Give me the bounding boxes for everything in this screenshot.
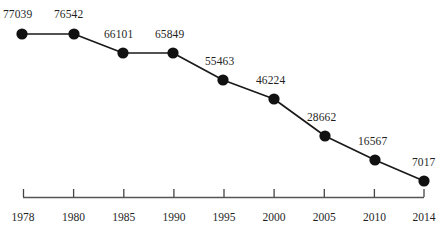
- data-point-label: 65849: [155, 28, 184, 40]
- data-point-label: 55463: [205, 55, 234, 67]
- x-tick-label: 2000: [263, 211, 286, 223]
- data-point-marker[interactable]: [268, 93, 279, 104]
- data-point-marker[interactable]: [167, 47, 178, 58]
- data-point-marker[interactable]: [369, 154, 380, 165]
- data-point-label: 77039: [3, 8, 32, 20]
- x-tick-label: 1990: [162, 211, 185, 223]
- x-tick-label: 2010: [363, 211, 386, 223]
- data-point-marker[interactable]: [117, 47, 128, 58]
- x-axis-ticks: [24, 189, 425, 197]
- data-point-markers: [16, 28, 429, 186]
- data-point-marker[interactable]: [68, 28, 79, 39]
- data-point-label: 7017: [412, 156, 435, 168]
- x-tick-label: 2005: [313, 211, 336, 223]
- data-point-marker[interactable]: [16, 28, 27, 39]
- x-tick-label: 2014: [413, 211, 436, 223]
- x-tick-label: 1995: [213, 211, 236, 223]
- data-point-marker[interactable]: [319, 130, 330, 141]
- data-point-label: 16567: [358, 135, 387, 147]
- data-point-label: 76542: [54, 8, 83, 20]
- x-tick-label: 1980: [62, 211, 85, 223]
- chart-plot-area: [0, 0, 445, 231]
- x-tick-label: 1978: [12, 211, 35, 223]
- data-point-label: 28662: [307, 111, 336, 123]
- data-point-marker[interactable]: [418, 175, 429, 186]
- line-chart: 77039 76542 66101 65849 55463 46224 2866…: [0, 0, 445, 231]
- x-tick-label: 1985: [112, 211, 135, 223]
- data-point-label: 46224: [256, 74, 285, 86]
- data-point-label: 66101: [104, 28, 133, 40]
- data-point-marker[interactable]: [217, 74, 228, 85]
